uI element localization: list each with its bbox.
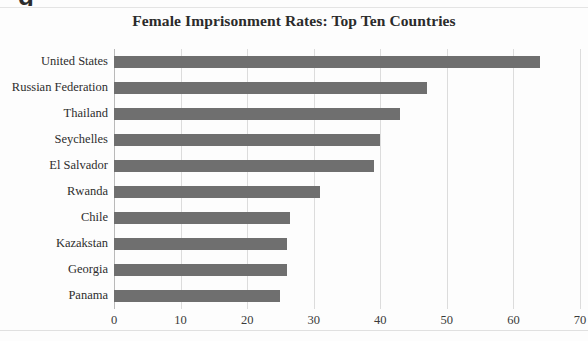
bar-row — [114, 127, 580, 153]
bar — [114, 212, 290, 224]
bar-row — [114, 101, 580, 127]
y-axis-tick-label: United States — [0, 54, 108, 69]
y-axis-tick-label: El Salvador — [0, 158, 108, 173]
bar-rows — [114, 49, 580, 309]
y-axis-tick-label: Rwanda — [0, 184, 108, 199]
bar — [114, 134, 380, 146]
x-axis-tick-label: 50 — [427, 313, 467, 328]
bar — [114, 264, 287, 276]
bar-row — [114, 231, 580, 257]
y-axis-tick-label: Chile — [0, 210, 108, 225]
bar-row — [114, 257, 580, 283]
bar-row — [114, 153, 580, 179]
bar-row — [114, 205, 580, 231]
bar — [114, 238, 287, 250]
bar — [114, 82, 427, 94]
bar — [114, 56, 540, 68]
plot-wrapper: United StatesRussian FederationThailandS… — [0, 45, 588, 313]
x-axis-labels: 010203040506070 — [0, 313, 588, 337]
y-axis-tick-label: Kazakstan — [0, 236, 108, 251]
bar-row — [114, 179, 580, 205]
bar-row — [114, 283, 580, 309]
y-axis-labels: United StatesRussian FederationThailandS… — [0, 45, 114, 305]
bar — [114, 108, 400, 120]
y-axis-tick-label: Georgia — [0, 262, 108, 277]
x-axis-tick-label: 10 — [161, 313, 201, 328]
chart-title: Female Imprisonment Rates: Top Ten Count… — [0, 12, 588, 30]
top-divider — [0, 7, 588, 8]
x-axis-tick-label: 0 — [94, 313, 134, 328]
bar — [114, 290, 280, 302]
bar — [114, 160, 374, 172]
x-axis-tick-label: 20 — [227, 313, 267, 328]
y-axis-tick-label: Panama — [0, 288, 108, 303]
gridline — [580, 49, 581, 309]
bar-row — [114, 75, 580, 101]
x-axis: 010203040506070 — [0, 313, 588, 335]
scan-artifact-glyph: g — [18, 0, 44, 6]
y-axis-tick-label: Thailand — [0, 106, 108, 121]
y-axis-tick-label: Seychelles — [0, 132, 108, 147]
x-axis-tick-label: 30 — [294, 313, 334, 328]
bottom-divider — [0, 330, 588, 331]
bar-row — [114, 49, 580, 75]
chart-figure: g Female Imprisonment Rates: Top Ten Cou… — [0, 0, 588, 341]
x-axis-tick-label: 40 — [360, 313, 400, 328]
x-axis-tick-label: 70 — [560, 313, 588, 328]
y-axis-tick-label: Russian Federation — [0, 80, 108, 95]
plot-area — [114, 49, 580, 309]
bar — [114, 186, 320, 198]
x-axis-tick-label: 60 — [493, 313, 533, 328]
